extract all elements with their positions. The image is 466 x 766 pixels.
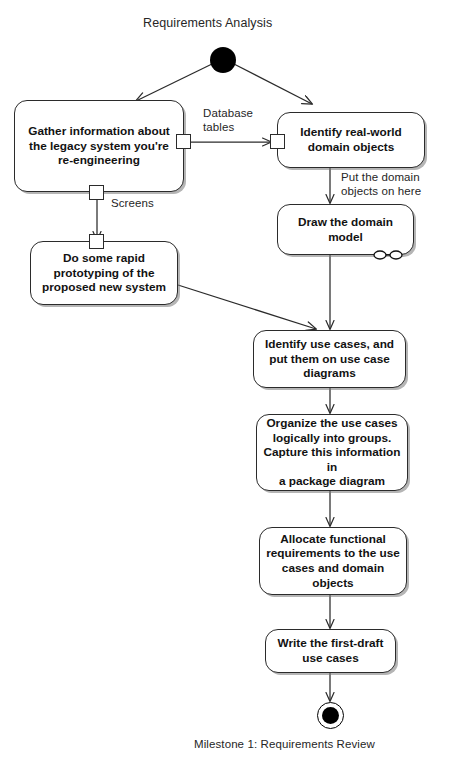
domain-model-icon: [373, 234, 403, 264]
edge-start-to-gather: [136, 64, 212, 101]
edge-prototype-to-usecases: [178, 285, 316, 329]
activity-draw-domain-model[interactable]: Draw the domain model: [277, 204, 414, 255]
activity-identify-domain-objects[interactable]: Identify real-world domain objects: [277, 112, 425, 168]
activity-organize-use-cases[interactable]: Organize the use cases logically into gr…: [256, 414, 408, 491]
pin-prototype-top[interactable]: [89, 234, 104, 249]
pin-identify-left[interactable]: [270, 134, 285, 149]
activity-allocate-requirements-label: Allocate functional requirements to the …: [264, 532, 402, 590]
activity-write-first-draft-label: Write the first-draft use cases: [270, 636, 391, 665]
milestone-caption: Milestone 1: Requirements Review: [194, 737, 375, 751]
pin-gather-right[interactable]: [176, 134, 191, 149]
activity-identify-use-cases[interactable]: Identify use cases, and put them on use …: [253, 330, 406, 388]
activity-identify-use-cases-label: Identify use cases, and put them on use …: [258, 337, 401, 381]
activity-diagram: Requirements Analysis Gather information…: [0, 0, 466, 766]
activity-rapid-prototyping-label: Do some rapid prototyping of the propose…: [35, 251, 173, 295]
activity-write-first-draft[interactable]: Write the first-draft use cases: [265, 629, 396, 673]
edge-label-screens: Screens: [111, 196, 154, 210]
edge-label-put-domain-objects: Put the domain objects on here: [341, 170, 421, 198]
edge-label-database-tables: Database tables: [203, 106, 253, 134]
edge-start-to-identify: [234, 64, 312, 104]
activity-identify-domain-objects-label: Identify real-world domain objects: [282, 125, 420, 154]
activity-rapid-prototyping[interactable]: Do some rapid prototyping of the propose…: [30, 241, 178, 305]
activity-organize-use-cases-label: Organize the use cases logically into gr…: [261, 416, 403, 489]
activity-allocate-requirements[interactable]: Allocate functional requirements to the …: [259, 527, 407, 595]
activity-gather-information-label: Gather information about the legacy syst…: [19, 124, 179, 168]
activity-gather-information[interactable]: Gather information about the legacy syst…: [14, 100, 184, 192]
initial-node: [210, 47, 236, 73]
final-node-core: [322, 707, 339, 724]
pin-gather-bottom[interactable]: [89, 185, 104, 200]
diagram-title: Requirements Analysis: [143, 16, 272, 30]
